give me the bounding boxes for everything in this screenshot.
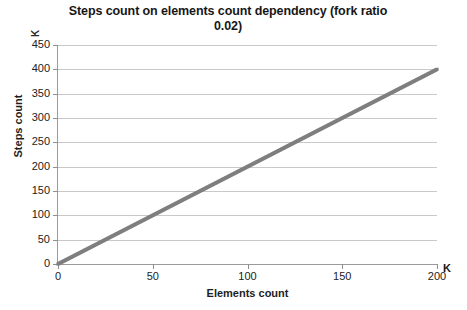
x-tick-label: 150 — [322, 270, 362, 282]
x-tick-label: 200 — [417, 270, 457, 282]
y-tick-label: 150 — [12, 184, 50, 196]
y-tick-label: 400 — [12, 62, 50, 74]
chart-container: Steps count on elements count dependency… — [0, 0, 467, 310]
y-tick-label: 300 — [12, 111, 50, 123]
x-axis-title: Elements count — [58, 287, 437, 299]
x-tick-label: 0 — [38, 270, 78, 282]
plot-area — [58, 45, 437, 264]
y-axis-unit-label: K — [30, 30, 41, 37]
y-tick-label: 250 — [12, 135, 50, 147]
y-tick-label: 200 — [12, 160, 50, 172]
y-tick-label: 100 — [12, 208, 50, 220]
y-tick-label: 450 — [12, 38, 50, 50]
x-tick-label: 100 — [228, 270, 268, 282]
x-tick-label: 50 — [133, 270, 173, 282]
x-tick-mark — [342, 264, 343, 269]
x-tick-mark — [437, 264, 438, 269]
data-series-steps-count — [58, 45, 437, 264]
x-tick-mark — [153, 264, 154, 269]
y-tick-label: 0 — [12, 257, 50, 269]
y-tick-label: 50 — [12, 233, 50, 245]
y-tick-label: 350 — [12, 87, 50, 99]
chart-title: Steps count on elements count dependency… — [58, 4, 398, 34]
x-tick-mark — [248, 264, 249, 269]
